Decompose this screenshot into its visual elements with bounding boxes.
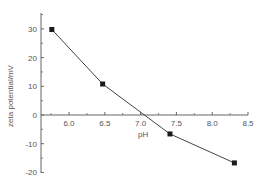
x-tick-label: 6.0: [63, 119, 75, 128]
data-series: [49, 27, 237, 165]
data-point-square-marker: [100, 82, 105, 87]
y-tick-label: 20: [28, 54, 37, 63]
x-tick-label: 7.0: [135, 119, 147, 128]
x-tick-label: 7.5: [171, 119, 183, 128]
data-point-square-marker: [232, 160, 237, 165]
y-tick-label: 10: [28, 82, 37, 91]
y-tick-label: -10: [25, 140, 37, 149]
chart-canvas: 3020100-10-206.06.57.07.58.08.5 pH zeta …: [0, 0, 266, 187]
y-axis-label: zeta potential/mV: [6, 64, 15, 126]
x-tick-label: 6.5: [99, 119, 111, 128]
zeta-potential-chart: 3020100-10-206.06.57.07.58.08.5 pH zeta …: [0, 0, 266, 187]
data-point-square-marker: [49, 27, 54, 32]
data-point-square-marker: [167, 131, 172, 136]
x-tick-label: 8.5: [242, 119, 254, 128]
x-tick-label: 8.0: [207, 119, 219, 128]
x-axis-label: pH: [138, 130, 148, 139]
y-tick-label: 30: [28, 25, 37, 34]
y-tick-label: 0: [33, 111, 38, 120]
series-line: [52, 29, 235, 162]
y-tick-label: -20: [25, 168, 37, 177]
